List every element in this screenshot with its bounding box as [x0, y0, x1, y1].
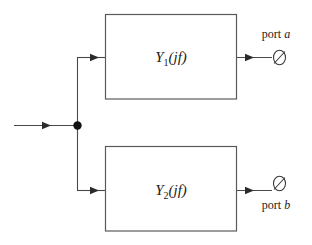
port-b-label-name: b: [284, 198, 290, 212]
port-a-label-name: a: [284, 27, 290, 41]
port-b-label-word: port: [262, 198, 282, 212]
input-arrowhead-icon: [42, 122, 51, 129]
diagram-canvas: Y1(jf) Y2(jf) port a: [0, 0, 312, 245]
port-a-label-word: port: [262, 27, 282, 41]
lower-branch-arrowhead-icon: [90, 187, 99, 194]
lower-branch-group: [77, 187, 106, 194]
output-wire-b-group: [236, 187, 272, 194]
port-b-label: port b: [262, 198, 290, 212]
upper-branch-group: [77, 54, 106, 61]
upper-branch-arrowhead-icon: [90, 54, 99, 61]
block-y1-label-arg: (jf): [169, 49, 187, 66]
output-wire-a-group: [236, 54, 272, 61]
output-a-arrowhead-icon: [245, 54, 254, 61]
terminal-b-icon: [274, 176, 286, 191]
block-diagram-svg: Y1(jf) Y2(jf) port a: [0, 0, 312, 245]
block-y2-label-arg: (jf): [169, 182, 187, 199]
block-y1[interactable]: Y1(jf): [106, 15, 237, 100]
block-y2[interactable]: Y2(jf): [106, 147, 237, 232]
terminal-a-icon: [274, 50, 286, 65]
output-b-arrowhead-icon: [245, 187, 254, 194]
input-wire-group: [14, 122, 77, 129]
port-a-label: port a: [262, 27, 290, 41]
signal-split-node: [73, 121, 81, 129]
